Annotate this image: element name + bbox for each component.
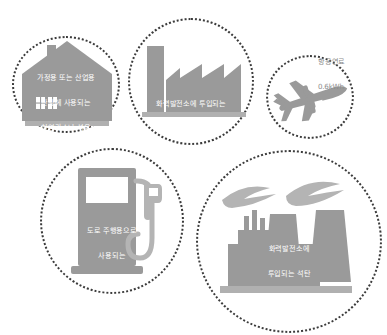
factory-icon	[142, 46, 246, 122]
coal-power-plant-icon	[214, 178, 358, 302]
caption-value: 1.7kWh	[136, 150, 246, 158]
airplane-icon	[272, 72, 354, 128]
house-icon	[20, 40, 114, 132]
fuel-pump-icon	[66, 164, 176, 282]
caption-value: 2.5kWh	[64, 302, 160, 310]
energy-sources-infographic: 가정용 또는 산업용 난방에 사용되는 천연가스나 석유 1kWh 화력발전소에…	[0, 0, 387, 335]
